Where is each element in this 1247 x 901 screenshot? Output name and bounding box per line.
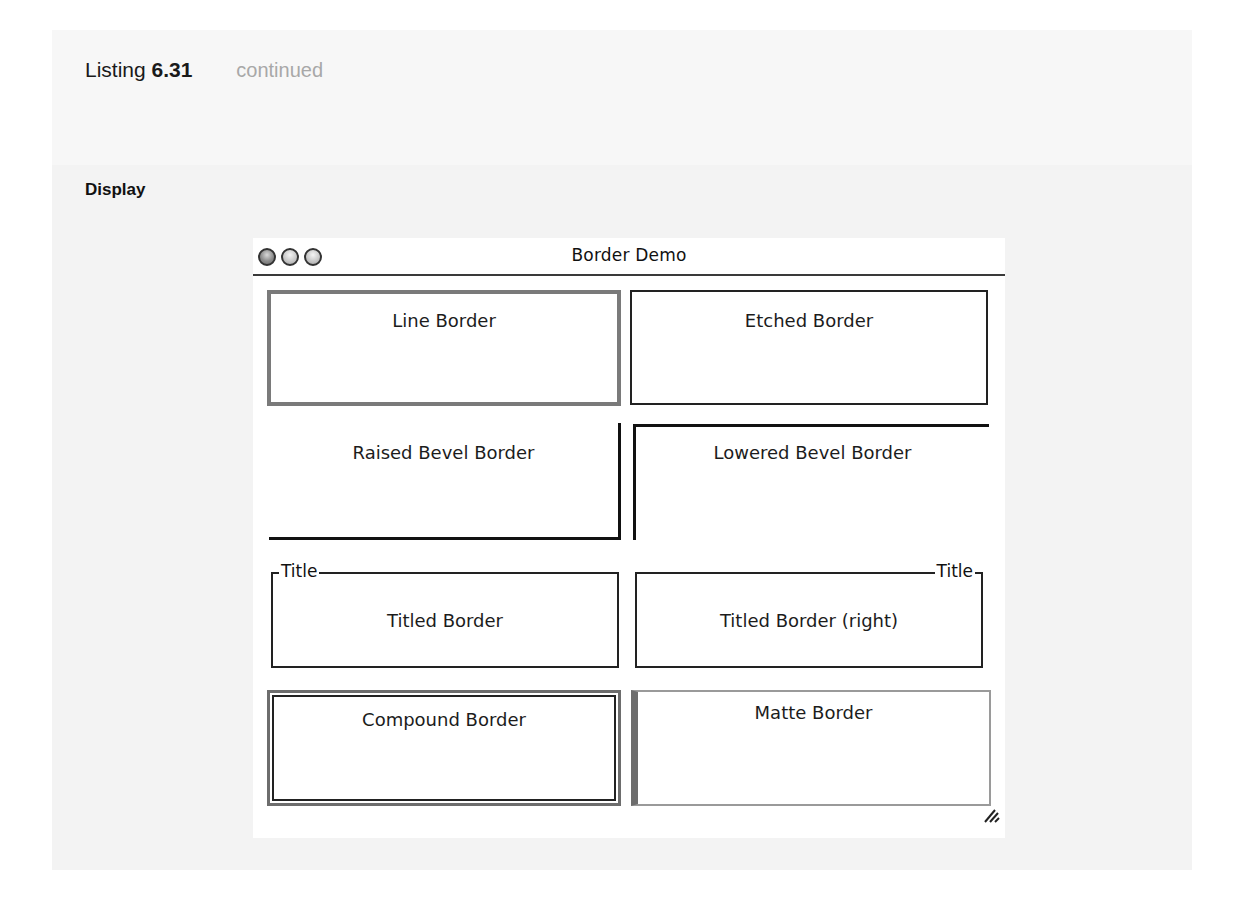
border-title: Title [279, 560, 319, 582]
window-titlebar[interactable]: Border Demo [253, 238, 1005, 276]
panel-label: Matte Border [638, 702, 989, 723]
panel-label: Etched Border [632, 310, 986, 331]
compound-border-panel: Compound Border [267, 690, 621, 806]
panel-label: Titled Border [273, 610, 617, 631]
matte-border-panel: Matte Border [631, 690, 991, 806]
panel-label: Line Border [271, 310, 617, 331]
border-title: Title [935, 560, 975, 582]
raised-bevel-border-panel: Raised Bevel Border [269, 423, 621, 540]
etched-border-panel: Etched Border [630, 290, 988, 405]
titled-border-panel: Title Titled Border [271, 572, 619, 668]
listing-number: 6.31 [152, 58, 193, 81]
border-demo-window: Border Demo Line Border Etched Border Ra… [253, 238, 1005, 838]
panel-label: Titled Border (right) [637, 610, 981, 631]
line-border-panel: Line Border [267, 290, 621, 406]
listing-header: Listing 6.31 continued [85, 58, 323, 82]
panel-label: Raised Bevel Border [269, 442, 618, 463]
titled-border-right-panel: Title Titled Border (right) [635, 572, 983, 668]
section-label: Display [85, 180, 145, 200]
panel-label: Lowered Bevel Border [636, 442, 989, 463]
window-title: Border Demo [253, 245, 1005, 265]
resize-grip-icon[interactable] [983, 806, 1001, 824]
lowered-bevel-border-panel: Lowered Bevel Border [633, 424, 989, 540]
listing-prefix: Listing [85, 58, 146, 81]
panel-label: Compound Border [270, 709, 618, 730]
listing-status: continued [236, 59, 323, 81]
